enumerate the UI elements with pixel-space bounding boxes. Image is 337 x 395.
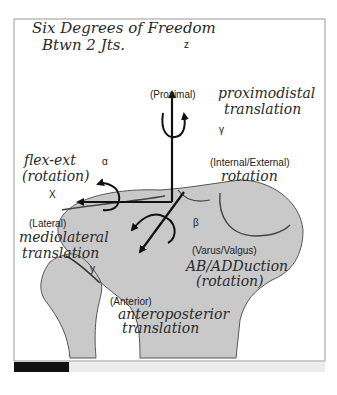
flex-ext-line-2: (rotation) bbox=[22, 168, 90, 184]
flex-ext-line-1: flex-ext bbox=[23, 152, 76, 168]
z-rotation-arrow bbox=[162, 113, 184, 137]
y-axis-label: y bbox=[90, 263, 95, 274]
mediolateral-line-1: mediolateral bbox=[19, 229, 109, 245]
gamma-symbol: γ bbox=[219, 124, 224, 135]
lateral-label: (Lateral) bbox=[29, 218, 66, 229]
x-axis-label: X bbox=[49, 189, 56, 200]
title-line-2: Btwn 2 Jts. bbox=[41, 36, 125, 54]
knee-dof-diagram: Six Degrees of Freedom Btwn 2 Jts. z (Pr… bbox=[0, 0, 337, 395]
alpha-symbol: α bbox=[102, 156, 108, 167]
z-axis-label: z bbox=[184, 39, 189, 50]
bottom-bar-dark-segment bbox=[14, 362, 69, 372]
mediolateral-line-2: translation bbox=[22, 245, 99, 261]
beta-symbol: β bbox=[193, 217, 199, 228]
internal-external-label: (Internal/External) bbox=[210, 157, 289, 168]
proximal-label: (Proximal) bbox=[150, 89, 196, 100]
proximodistal-line-2: translation bbox=[224, 101, 301, 117]
int-ext-rotation-annotation: rotation bbox=[221, 168, 278, 184]
anteroposterior-line-2: translation bbox=[122, 320, 199, 336]
diagram-canvas: Six Degrees of Freedom Btwn 2 Jts. z (Pr… bbox=[0, 0, 337, 395]
ab-adduction-line-1: AB/ADDuction bbox=[184, 258, 288, 274]
ab-adduction-line-2: (rotation) bbox=[196, 273, 264, 289]
varus-valgus-label: (Varus/Valgus) bbox=[192, 245, 257, 256]
title-line-1: Six Degrees of Freedom bbox=[32, 19, 216, 37]
proximodistal-line-1: proximodistal bbox=[218, 85, 315, 101]
